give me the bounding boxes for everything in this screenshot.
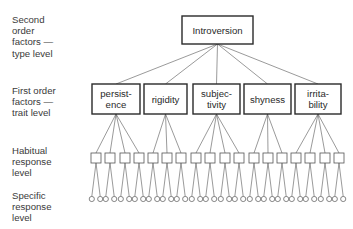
connector-line <box>268 163 272 196</box>
habitual-response-node <box>205 153 215 163</box>
connector-line <box>217 114 226 153</box>
connector-line <box>192 163 196 196</box>
specific-response-node <box>227 196 232 201</box>
trait-node-label: subjec- <box>201 88 232 99</box>
habitual-response-node <box>320 153 330 163</box>
connector-line <box>264 163 268 196</box>
connector-line <box>217 44 218 84</box>
connector-line <box>116 44 218 84</box>
specific-response-node <box>312 196 317 201</box>
habitual-response-node <box>263 153 273 163</box>
connector-line <box>110 163 114 196</box>
connector-line <box>268 114 269 153</box>
habitual-response-node <box>305 153 315 163</box>
connector-line <box>268 114 283 153</box>
connector-line <box>239 163 243 196</box>
specific-response-node <box>155 196 160 201</box>
specific-response-node <box>98 196 103 201</box>
connector-line <box>296 163 300 196</box>
specific-response-node <box>218 196 223 201</box>
connector-line <box>139 163 143 196</box>
specific-response-node <box>298 196 303 201</box>
hierarchy-diagram: Introversionpersist-encerigiditysubjec-t… <box>0 0 353 229</box>
connector-line <box>278 163 282 196</box>
trait-node-label: tivity <box>207 99 226 110</box>
connector-line <box>166 44 218 84</box>
specific-response-node <box>303 196 308 201</box>
habitual-response-node <box>134 153 144 163</box>
habitual-response-node <box>249 153 259 163</box>
connector-line <box>318 114 339 153</box>
specific-response-node <box>341 196 346 201</box>
connector-line <box>121 163 125 196</box>
specific-response-node <box>289 196 294 201</box>
connector-line <box>225 163 229 196</box>
habitual-response-node <box>191 153 201 163</box>
specific-response-node <box>118 196 123 201</box>
habitual-response-node <box>277 153 287 163</box>
connector-line <box>321 163 325 196</box>
specific-response-node <box>183 196 188 201</box>
connector-line <box>163 163 167 196</box>
connector-line <box>153 163 157 196</box>
connector-line <box>177 163 181 196</box>
trait-node-label: ence <box>106 99 127 110</box>
habitual-response-node <box>91 153 101 163</box>
specific-response-node <box>132 196 137 201</box>
specific-response-node <box>232 196 237 201</box>
connector-line <box>96 163 100 196</box>
habitual-response-node <box>162 153 172 163</box>
specific-response-node <box>261 196 266 201</box>
connector-line <box>210 163 214 196</box>
specific-response-node <box>284 196 289 201</box>
connector-line <box>292 163 296 196</box>
specific-response-node <box>169 196 174 201</box>
specific-response-node <box>203 196 208 201</box>
habitual-response-node <box>234 153 244 163</box>
connector-line <box>92 163 96 196</box>
connector-line <box>116 114 125 153</box>
connector-line <box>149 163 153 196</box>
connector-line <box>296 114 318 153</box>
trait-node-label: rigidity <box>152 94 180 105</box>
connector-line <box>335 163 339 196</box>
connector-line <box>166 114 168 153</box>
connector-line <box>135 163 139 196</box>
connector-line <box>106 163 110 196</box>
specific-response-node <box>212 196 217 201</box>
specific-response-node <box>327 196 332 201</box>
connector-line <box>125 163 129 196</box>
specific-response-node <box>112 196 117 201</box>
connector-line <box>221 163 225 196</box>
specific-response-node <box>256 196 261 201</box>
connector-line <box>218 44 319 84</box>
specific-response-node <box>270 196 275 201</box>
habitual-response-node <box>176 153 186 163</box>
habitual-response-node <box>220 153 230 163</box>
connector-line <box>166 114 182 153</box>
connector-line <box>250 163 254 196</box>
habitual-response-node <box>105 153 115 163</box>
habitual-response-node <box>291 153 301 163</box>
specific-response-node <box>189 196 194 201</box>
connector-line <box>339 163 343 196</box>
specific-response-node <box>275 196 280 201</box>
connector-line <box>218 44 268 84</box>
connector-line <box>310 114 318 153</box>
specific-response-node <box>198 196 203 201</box>
connector-line <box>167 163 171 196</box>
specific-response-node <box>332 196 337 201</box>
connector-line <box>318 114 325 153</box>
specific-response-node <box>103 196 108 201</box>
connector-line <box>206 163 210 196</box>
connector-line <box>153 114 166 153</box>
specific-response-node <box>174 196 179 201</box>
connector-line <box>325 163 329 196</box>
habitual-response-node <box>334 153 344 163</box>
connector-line <box>254 114 268 153</box>
specific-response-node <box>146 196 151 201</box>
connector-line <box>306 163 310 196</box>
specific-response-node <box>89 196 94 201</box>
specific-response-node <box>141 196 146 201</box>
trait-node-label: irrita- <box>307 88 329 99</box>
